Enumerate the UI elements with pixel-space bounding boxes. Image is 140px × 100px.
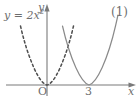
- origin-label: O: [38, 86, 47, 97]
- x-axis-label: x: [128, 86, 134, 97]
- math-figure-parabolas: y = 2x2 (1) y x O 3: [0, 0, 140, 100]
- y-axis-label: y: [38, 2, 44, 13]
- solid-curve-tag-label: (1): [111, 6, 128, 18]
- x-tick-label-3: 3: [85, 86, 92, 97]
- solid-parabola-curve: [63, 15, 119, 85]
- y-axis-arrowhead: [44, 4, 49, 12]
- dashed-curve-equation-text: y = 2x: [4, 9, 40, 22]
